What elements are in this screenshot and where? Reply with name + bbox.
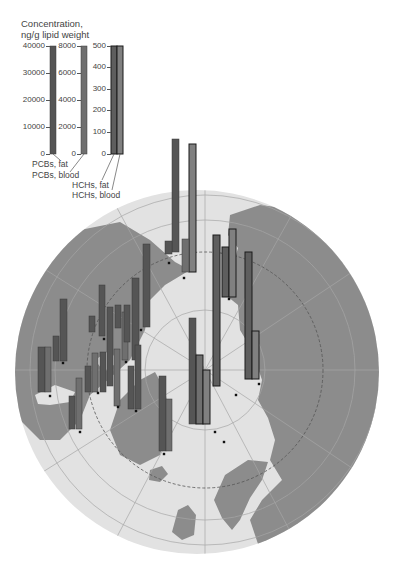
site-marker: [79, 431, 81, 433]
bar-pcbs-fat: [60, 299, 67, 361]
bar-pcbs-fat: [172, 139, 179, 252]
tick-mark: [107, 154, 111, 155]
bar-pcbs-fat: [69, 396, 75, 429]
bar-pcbs-fat: [159, 376, 166, 451]
bar-hchs-blood: [117, 46, 123, 154]
tick-mark: [107, 67, 111, 68]
site-marker: [49, 395, 51, 397]
site-marker: [223, 441, 225, 443]
legend-title-line2: ng/g lipid weight: [21, 29, 89, 40]
bar-hchs-blood: [189, 144, 196, 272]
site-marker: [140, 329, 142, 331]
label-pcbs-fat: PCBs, fat: [32, 159, 68, 169]
bar-hchs-blood: [252, 331, 259, 379]
site-marker: [97, 392, 99, 394]
hchs-axis-tick: 500: [66, 41, 106, 50]
bar-pcbs-blood: [166, 399, 172, 451]
bar-pcbs-fat: [38, 347, 45, 392]
arctic-contaminant-figure: Concentration, ng/g lipid weight 4000030…: [0, 0, 393, 565]
site-marker: [235, 394, 237, 396]
label-hchs-blood: HCHs, blood: [72, 190, 120, 200]
bar-pcbs-fat: [115, 305, 121, 328]
bar-pcbs-blood: [114, 349, 120, 406]
site-marker: [258, 383, 260, 385]
hchs-axis-tick: 400: [66, 62, 106, 71]
bar-pcbs-fat: [100, 352, 106, 392]
tick-mark: [107, 110, 111, 111]
tick-mark: [107, 46, 111, 47]
bar-pcbs-fat: [189, 318, 196, 424]
bar-hchs-fat: [245, 252, 252, 379]
site-marker: [62, 362, 64, 364]
bar-pcbs-fat: [53, 336, 59, 361]
hchs-axis-tick: 300: [66, 84, 106, 93]
bar-pcbs-fat: [89, 316, 95, 332]
bar-pcbs-blood: [45, 347, 51, 392]
hchs-axis-tick: 200: [66, 105, 106, 114]
bar-pcbs-blood: [92, 353, 98, 392]
polar-map: [0, 0, 393, 565]
label-hchs-fat: HCHs, fat: [72, 180, 109, 190]
bar-pcbs-blood: [196, 355, 203, 424]
tick-mark: [77, 100, 81, 101]
pcbs-blood-axis-tick: 4000: [36, 95, 76, 104]
site-marker: [117, 406, 119, 408]
label-pcbs-blood: PCBs, blood: [32, 170, 79, 180]
tick-mark: [107, 89, 111, 90]
bar-pcbs-fat: [85, 366, 91, 392]
site-marker: [214, 431, 216, 433]
bar-pcbs-fat: [124, 305, 130, 342]
site-marker: [183, 277, 185, 279]
site-marker: [163, 453, 165, 455]
tick-mark: [107, 132, 111, 133]
site-marker: [168, 262, 170, 264]
tick-mark: [77, 73, 81, 74]
hchs-axis-tick: 100: [66, 127, 106, 136]
bar-pcbs-fat: [143, 244, 150, 327]
bar-pcbs-fat: [128, 366, 134, 409]
legend-title-line1: Concentration,: [21, 18, 89, 29]
bar-pcbs-fat: [99, 285, 105, 336]
bar-hchs-fat: [213, 235, 220, 386]
bar-hchs-fat: [111, 46, 117, 154]
bar-hchs-blood: [203, 370, 210, 424]
hchs-axis-tick: 0: [66, 149, 106, 158]
bar-pcbs-blood: [182, 239, 189, 272]
bar-pcbs-blood: [76, 378, 82, 429]
bar-hchs-fat: [222, 247, 229, 297]
site-marker: [103, 338, 105, 340]
site-marker: [125, 361, 127, 363]
site-marker: [228, 298, 230, 300]
bar-pcbs-fat: [165, 241, 172, 254]
bar-hchs-blood: [229, 229, 236, 297]
bar-pcbs-fat: [135, 345, 141, 409]
site-marker: [135, 410, 137, 412]
legend-title: Concentration, ng/g lipid weight: [21, 18, 89, 40]
bar-pcbs-fat: [107, 307, 113, 386]
